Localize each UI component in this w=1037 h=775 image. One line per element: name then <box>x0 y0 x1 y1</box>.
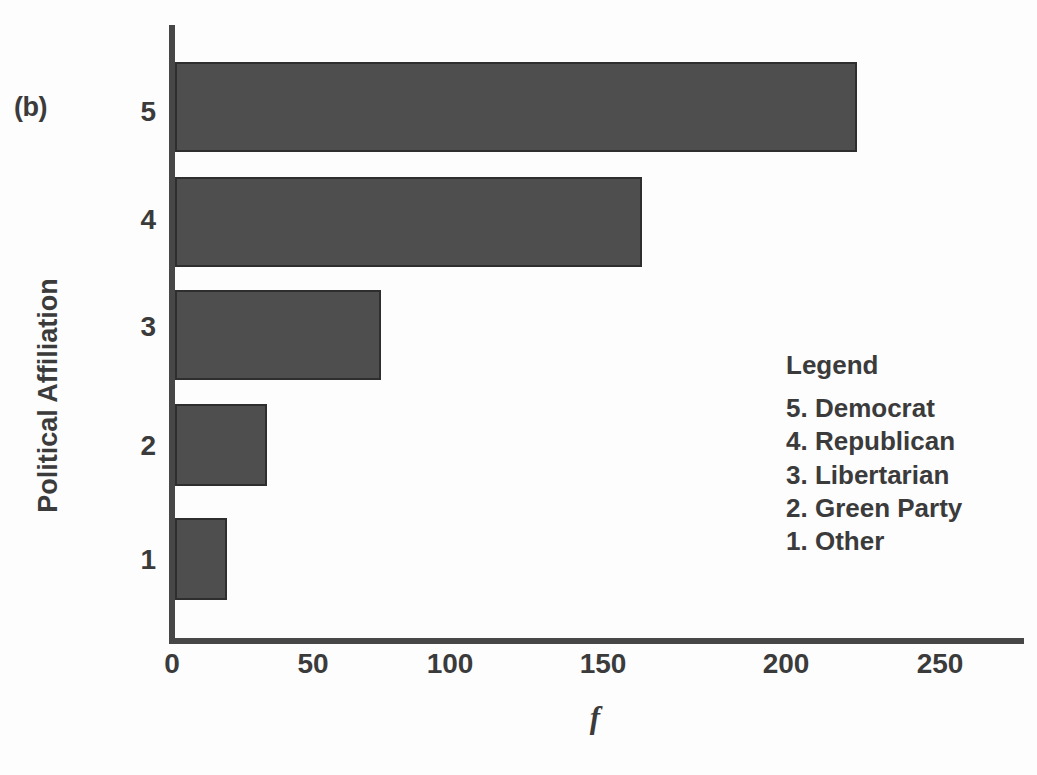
legend-item-4: 4. Republican <box>786 425 1016 458</box>
legend-item-1: 1. Other <box>786 525 1016 558</box>
x-tick-label-50: 50 <box>268 648 358 680</box>
x-axis-line <box>169 638 1024 644</box>
legend-item-5: 5. Democrat <box>786 392 1016 425</box>
legend-item-2: 2. Green Party <box>786 492 1016 525</box>
x-tick-label-200: 200 <box>741 648 831 680</box>
y-tick-label-5: 5 <box>110 96 156 128</box>
bar-5 <box>175 62 857 152</box>
x-tick-label-100: 100 <box>405 648 495 680</box>
bar-1 <box>175 518 227 600</box>
x-tick-label-150: 150 <box>558 648 648 680</box>
bar-4 <box>175 177 642 267</box>
legend: Legend 5. Democrat 4. Republican 3. Libe… <box>786 350 1016 558</box>
plot-area: 5 4 3 2 1 0 50 100 150 200 250 f Legend … <box>0 0 1037 775</box>
x-axis-title: f <box>555 700 635 736</box>
x-tick-label-0: 0 <box>127 648 217 680</box>
legend-item-3: 3. Libertarian <box>786 459 1016 492</box>
legend-title: Legend <box>786 350 1016 381</box>
bar-2 <box>175 404 267 486</box>
x-tick-label-250: 250 <box>895 648 985 680</box>
y-tick-label-2: 2 <box>110 430 156 462</box>
y-tick-label-4: 4 <box>110 204 156 236</box>
y-tick-label-3: 3 <box>110 311 156 343</box>
bar-3 <box>175 290 381 380</box>
figure-panel-b: (b) Political Affiliation 5 4 3 2 1 0 50… <box>0 0 1037 775</box>
y-tick-label-1: 1 <box>110 544 156 576</box>
